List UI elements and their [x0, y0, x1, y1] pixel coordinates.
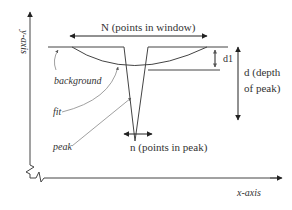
peak-label: peak	[52, 141, 72, 152]
x-axis-label: x-axis	[236, 187, 261, 198]
window-width-label: N (points in window)	[101, 21, 196, 34]
peak-width-label: n (points in peak)	[130, 141, 208, 154]
d1-annotation: d1	[215, 50, 233, 67]
depth-label-line2: of peak)	[244, 82, 281, 95]
peak-width-annotation: n (points in peak)	[124, 134, 208, 154]
callout-background: background	[54, 50, 102, 86]
background-label: background	[54, 75, 102, 86]
depth-annotation: d (depth of peak)	[238, 47, 281, 120]
axis-break-icon	[26, 160, 280, 182]
y-axis-label: y-axis	[19, 29, 30, 54]
window-width-annotation: N (points in window)	[70, 21, 207, 36]
fit-curve	[72, 47, 207, 66]
fit-label: fit	[53, 106, 62, 117]
callout-peak: peak	[52, 98, 131, 152]
signal-trace	[48, 47, 228, 141]
y-axis: y-axis	[19, 12, 30, 160]
x-axis: x-axis	[26, 160, 282, 198]
depth-label-line1: d (depth	[244, 66, 281, 79]
d1-label: d1	[223, 53, 233, 64]
peak-detection-diagram: y-axis x-axis N (points in window) d1 d …	[0, 0, 292, 210]
